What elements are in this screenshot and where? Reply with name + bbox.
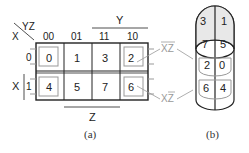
cyl-cell-3: 3: [200, 15, 206, 27]
row-header-1: 1: [26, 81, 32, 92]
col-header-01: 01: [71, 31, 83, 42]
caption-a: (a): [84, 128, 97, 141]
kmap-diagram: YZ X Y 00 01 11 10 0 1 X 0 1 3 2 4: [0, 0, 249, 153]
cyl-cell-5: 5: [220, 38, 226, 50]
cell-7: 7: [102, 81, 108, 93]
cyl-cell-1: 1: [221, 15, 227, 27]
row-header-0: 0: [26, 52, 32, 63]
col-header-11: 11: [99, 31, 110, 42]
col-var-label: YZ: [22, 21, 35, 32]
cyl-cell-2: 2: [204, 59, 210, 71]
y-label: Y: [116, 14, 124, 26]
caption-b: (b): [206, 128, 219, 141]
col-header-10: 10: [127, 31, 139, 42]
cell-4: 4: [46, 81, 52, 93]
cell-1: 1: [74, 52, 80, 64]
loop-label-xbar-zbar: XZ: [137, 42, 193, 62]
row-var-label: X: [12, 31, 19, 42]
x-label: X: [12, 80, 20, 92]
svg-text:XZ: XZ: [161, 93, 174, 104]
cyl-cell-4: 4: [220, 82, 226, 94]
cell-0: 0: [46, 52, 52, 64]
cell-5: 5: [74, 81, 80, 93]
cyl-cell-0: 0: [219, 59, 225, 71]
col-header-00: 00: [43, 31, 55, 42]
cell-6: 6: [128, 81, 134, 93]
cell-2: 2: [128, 52, 134, 64]
cyl-cell-6: 6: [203, 82, 209, 94]
cyl-cell-7: 7: [202, 38, 208, 50]
svg-text:XZ: XZ: [161, 43, 174, 54]
loop-label-x-zbar: XZ: [137, 86, 193, 104]
z-label: Z: [89, 111, 96, 123]
cell-3: 3: [102, 52, 108, 64]
